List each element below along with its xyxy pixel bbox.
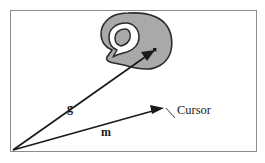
target-point-dot: [153, 48, 156, 51]
vector-g-label: g: [67, 101, 73, 115]
vector-m-label: m: [101, 125, 111, 139]
vector-diagram: g m Cursor: [0, 0, 265, 163]
cursor-label: Cursor: [177, 103, 212, 117]
figure-container: g m Cursor: [0, 0, 265, 163]
